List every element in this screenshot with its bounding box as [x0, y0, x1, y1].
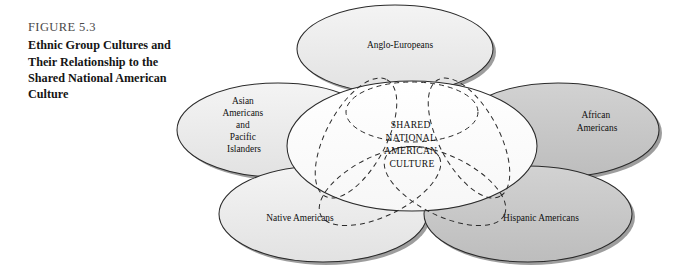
label-line: Anglo-Europeans [367, 40, 433, 50]
label-line: Islanders [227, 144, 261, 154]
label-line: Native Americans [266, 213, 334, 223]
label-hispanic-americans: Hispanic Americans [503, 213, 579, 223]
label-line: NATIONAL [386, 132, 436, 143]
label-line: AMERICAN [384, 145, 437, 156]
label-line: and [236, 120, 250, 130]
label-native-americans: Native Americans [266, 213, 334, 223]
label-line: Hispanic Americans [503, 213, 579, 223]
label-line: African [582, 110, 611, 120]
label-line: Americans [577, 123, 618, 133]
label-line: CULTURE [389, 158, 434, 169]
label-line: Pacific [230, 132, 256, 142]
figure-page: FIGURE 5.3 Ethnic Group Cultures and The… [0, 0, 678, 280]
label-line: Americans [223, 108, 264, 118]
venn-diagram: Anglo-Europeans Asian Americans and Paci… [0, 0, 678, 280]
label-anglo-europeans: Anglo-Europeans [367, 40, 433, 50]
label-line: SHARED [391, 119, 431, 130]
label-line: Asian [232, 96, 254, 106]
